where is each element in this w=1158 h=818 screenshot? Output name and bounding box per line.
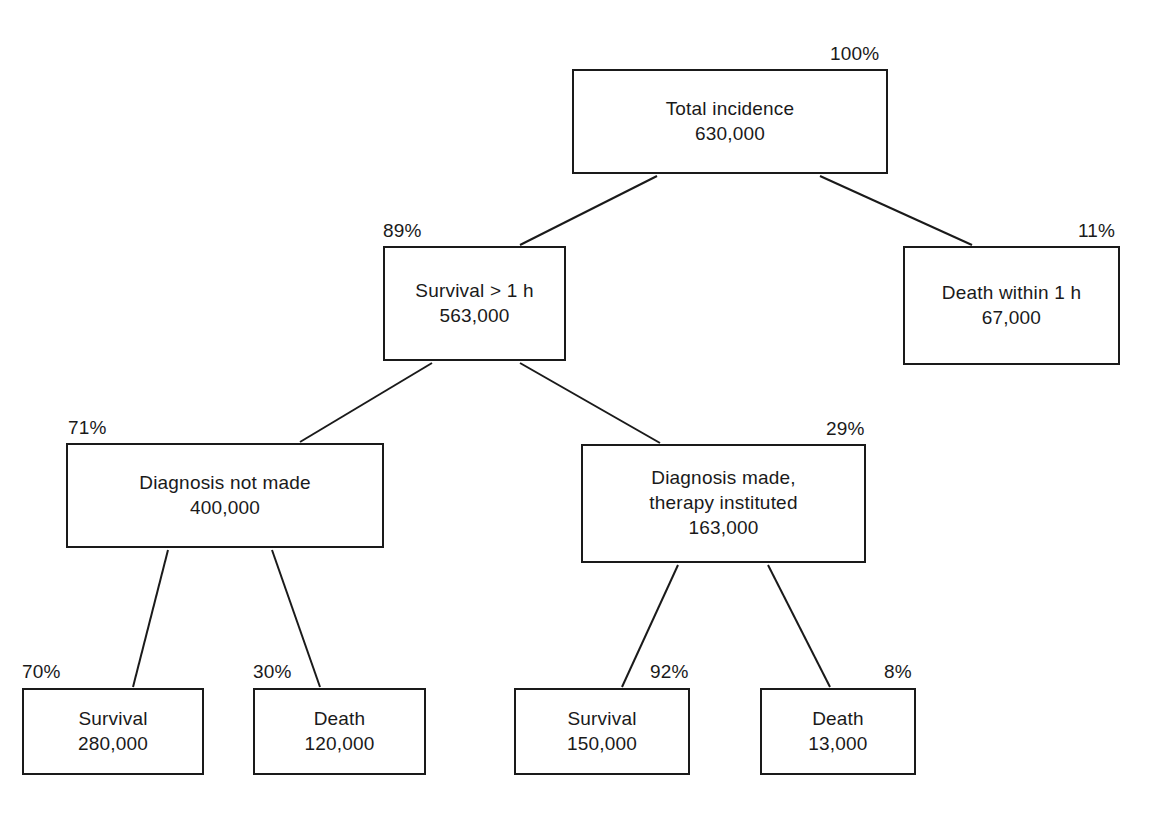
node-total-incidence-label: Total incidence xyxy=(666,97,795,122)
node-diagnosis-made-label-line1: Diagnosis made, xyxy=(651,466,796,491)
edge-total-to-survival1h xyxy=(520,176,657,245)
percent-label-total-incidence: 100% xyxy=(830,43,879,65)
node-diagnosis-not-made-value: 400,000 xyxy=(190,496,260,521)
tree-diagram-canvas: Total incidence 630,000 100% Survival > … xyxy=(0,0,1158,818)
node-death-within-1h-value: 67,000 xyxy=(982,306,1041,331)
node-death-undiagnosed-value: 120,000 xyxy=(304,732,374,757)
node-survival-treated[interactable]: Survival 150,000 xyxy=(514,688,690,775)
node-diagnosis-made[interactable]: Diagnosis made, therapy instituted 163,0… xyxy=(581,444,866,563)
node-survival-treated-value: 150,000 xyxy=(567,732,637,757)
percent-label-death-undiagnosed: 30% xyxy=(253,661,292,683)
node-survival-over-1h[interactable]: Survival > 1 h 563,000 xyxy=(383,246,566,361)
node-death-treated[interactable]: Death 13,000 xyxy=(760,688,916,775)
percent-label-survival-undiagnosed: 70% xyxy=(22,661,61,683)
edge-nodiagnosis-to-survival xyxy=(133,550,168,687)
node-death-undiagnosed-label: Death xyxy=(314,707,366,732)
node-survival-over-1h-value: 563,000 xyxy=(439,304,509,329)
node-death-within-1h[interactable]: Death within 1 h 67,000 xyxy=(903,246,1120,365)
node-total-incidence[interactable]: Total incidence 630,000 xyxy=(572,69,888,174)
node-survival-treated-label: Survival xyxy=(567,707,636,732)
node-survival-undiagnosed-value: 280,000 xyxy=(78,732,148,757)
node-death-within-1h-label: Death within 1 h xyxy=(942,281,1081,306)
percent-label-death-treated: 8% xyxy=(884,661,912,683)
percent-label-diagnosis-not-made: 71% xyxy=(68,417,107,439)
edge-survival1h-to-diagnosis xyxy=(520,363,660,443)
node-survival-over-1h-label: Survival > 1 h xyxy=(415,279,533,304)
edge-total-to-death1h xyxy=(820,176,972,245)
node-diagnosis-not-made-label: Diagnosis not made xyxy=(139,471,311,496)
node-death-undiagnosed[interactable]: Death 120,000 xyxy=(253,688,426,775)
edge-diagnosis-to-death xyxy=(768,565,830,687)
percent-label-death-within-1h: 11% xyxy=(1078,220,1115,242)
node-death-treated-label: Death xyxy=(812,707,864,732)
percent-label-survival-treated: 92% xyxy=(650,661,689,683)
node-diagnosis-made-value: 163,000 xyxy=(688,516,758,541)
percent-label-diagnosis-made: 29% xyxy=(826,418,865,440)
node-death-treated-value: 13,000 xyxy=(808,732,867,757)
node-survival-undiagnosed-label: Survival xyxy=(78,707,147,732)
node-diagnosis-made-label-line2: therapy instituted xyxy=(649,491,797,516)
percent-label-survival-over-1h: 89% xyxy=(383,220,422,242)
node-total-incidence-value: 630,000 xyxy=(695,122,765,147)
edge-survival1h-to-nodiagnosis xyxy=(300,363,432,442)
node-survival-undiagnosed[interactable]: Survival 280,000 xyxy=(22,688,204,775)
node-diagnosis-not-made[interactable]: Diagnosis not made 400,000 xyxy=(66,443,384,548)
